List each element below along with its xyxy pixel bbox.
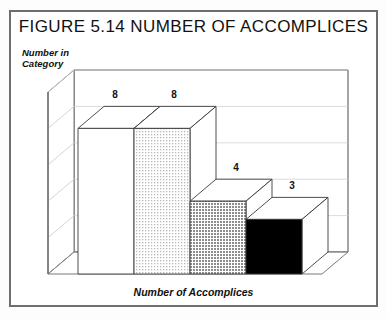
value-label-none: 8 — [112, 89, 118, 100]
bar-three[interactable] — [246, 197, 328, 274]
x-axis-title: Number of Accomplices — [0, 286, 387, 298]
chart-left-wall — [48, 70, 74, 274]
bar-chart-svg: 0 2 4 6 8 10 — [46, 62, 356, 277]
value-label-two: 4 — [233, 162, 239, 173]
figure-container: FIGURE 5.14 NUMBER OF ACCOMPLICES Number… — [0, 0, 387, 319]
plot-area: 0 2 4 6 8 10 — [46, 62, 356, 277]
value-label-one: 8 — [171, 89, 177, 100]
figure-title: FIGURE 5.14 NUMBER OF ACCOMPLICES — [9, 17, 378, 37]
value-label-three: 3 — [289, 180, 295, 191]
